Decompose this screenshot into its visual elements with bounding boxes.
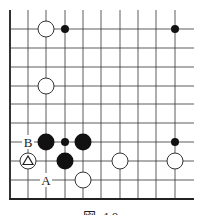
figure-caption: 図 10 (0, 206, 203, 215)
white-stone (38, 78, 54, 94)
small-black-stone (171, 138, 179, 146)
white-stone (112, 153, 128, 169)
small-black-stone (171, 25, 179, 33)
point-label-a: A (41, 173, 51, 188)
white-stone (38, 21, 54, 37)
small-black-stone (61, 138, 69, 146)
white-stone (167, 153, 183, 169)
black-stone (38, 134, 55, 151)
white-stone (75, 172, 91, 188)
black-stone (57, 153, 74, 170)
go-board: BA (0, 0, 203, 215)
small-black-stone (61, 25, 69, 33)
point-label-b: B (24, 135, 33, 150)
board-grid (9, 10, 194, 199)
stones (20, 21, 183, 188)
black-stone (75, 134, 92, 151)
